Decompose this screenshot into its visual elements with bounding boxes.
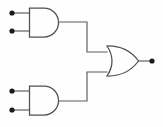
terminal-input-b[interactable] (9, 28, 14, 33)
and-bottom-gate-body (30, 86, 59, 115)
wire-and-bottom-to-or (59, 72, 107, 101)
terminal-input-d[interactable] (9, 107, 14, 112)
logic-circuit-diagram (0, 0, 163, 127)
wire-and-top-to-or (59, 22, 107, 52)
terminal-output[interactable] (149, 58, 154, 63)
or-gate-body (107, 46, 139, 76)
and-gate-bottom[interactable] (9, 86, 58, 115)
and-gate-top[interactable] (9, 8, 58, 37)
terminal-input-a[interactable] (9, 10, 14, 15)
circuit-svg-canvas (0, 0, 163, 127)
and-top-gate-body (30, 8, 59, 37)
terminal-input-c[interactable] (9, 88, 14, 93)
or-gate[interactable] (107, 46, 155, 76)
